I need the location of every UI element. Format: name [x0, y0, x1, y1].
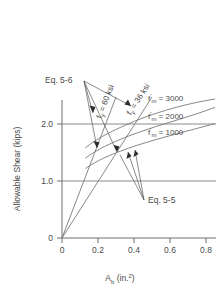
- line-fy-60: [62, 97, 116, 238]
- y-tick-label-0: 0: [48, 233, 53, 243]
- fm-labels: f'm = 3000 f'm = 2000 f'm = 1000: [148, 93, 184, 138]
- label-fm-1000: f'm = 1000: [148, 127, 184, 138]
- x-tick-labels: 0 0.2 0.4 0.6 0.8: [60, 245, 213, 255]
- leader-55-a: [128, 152, 144, 200]
- y-tick-labels: 2.0 1.0 0: [41, 119, 53, 243]
- x-axis-title-unit-close: ): [132, 273, 135, 283]
- arrowhead-56-a: [90, 106, 96, 114]
- svg-text:Ab (in.2): Ab (in.2): [105, 273, 135, 285]
- chart-svg: 0 0.2 0.4 0.6 0.8 2.0 1.0 0 Allowable Sh…: [0, 0, 218, 296]
- chart-figure: 0 0.2 0.4 0.6 0.8 2.0 1.0 0 Allowable Sh…: [0, 0, 218, 296]
- annotation-eq-5-5-label: Eq. 5-5: [148, 195, 176, 205]
- x-tick-label-0: 0: [60, 245, 65, 255]
- annotation-eq-5-6-label: Eq. 5-6: [45, 75, 73, 85]
- y-axis-title: Allowable Shear (kips): [12, 127, 22, 212]
- x-tick-label-0.6: 0.6: [164, 245, 176, 255]
- label-fm-2000: f'm = 2000: [148, 111, 184, 122]
- x-tick-label-0.2: 0.2: [92, 245, 104, 255]
- x-tick-label-0.4: 0.4: [128, 245, 140, 255]
- y-tick-label-2.0: 2.0: [41, 119, 53, 129]
- annotation-eq-5-5-leaders: [120, 150, 144, 200]
- y-tick-label-1.0: 1.0: [41, 176, 53, 186]
- label-fm-3000: f'm = 3000: [148, 93, 184, 104]
- fy-labels: fy = 60 ksi fy = 36 ksi: [95, 82, 153, 120]
- x-axis-ticks: [62, 238, 206, 243]
- y-axis-ticks: [57, 124, 62, 238]
- leader-55-c: [135, 150, 144, 200]
- axes-lines: [62, 100, 216, 238]
- annotation-eq-5-5: Eq. 5-5: [120, 150, 176, 205]
- x-axis-title-unit-open: (in.: [114, 273, 128, 283]
- leader-55-b: [120, 155, 144, 200]
- x-tick-label-0.8: 0.8: [200, 245, 212, 255]
- x-axis-title: Ab (in.2): [105, 273, 135, 285]
- arrowhead-55-a: [127, 152, 132, 159]
